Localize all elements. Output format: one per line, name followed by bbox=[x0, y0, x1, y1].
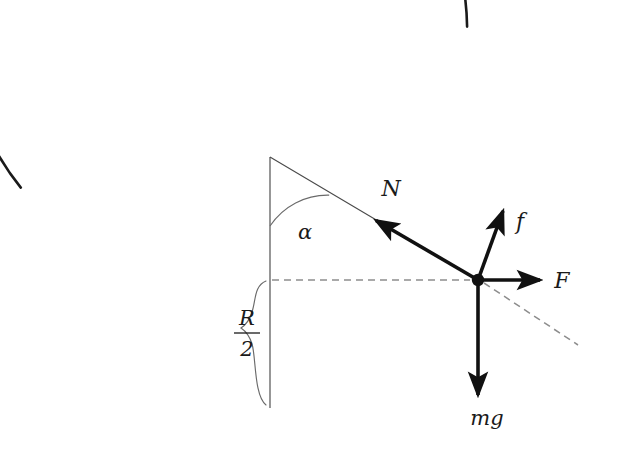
figure-canvas: N f F mg α R 2 bbox=[0, 0, 621, 460]
force-diagram: N f F mg α R 2 bbox=[0, 0, 621, 460]
radius-denominator-label: 2 bbox=[239, 337, 253, 361]
applied-force-label: F bbox=[553, 268, 570, 293]
radius-numerator-label: R bbox=[238, 306, 255, 330]
normal-force-label: N bbox=[380, 176, 401, 201]
contact-point-dot bbox=[472, 274, 484, 286]
weight-label: mg bbox=[470, 406, 503, 430]
angle-alpha-label: α bbox=[298, 220, 312, 244]
